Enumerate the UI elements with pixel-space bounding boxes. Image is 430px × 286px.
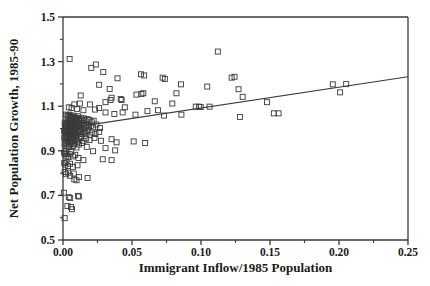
data-point-marker <box>330 82 335 87</box>
data-point-marker <box>109 158 114 163</box>
data-point-marker <box>103 146 108 151</box>
y-tick-label: 0.9 <box>41 145 56 157</box>
data-point-marker <box>114 140 119 145</box>
x-tick-label: 0.15 <box>260 246 280 258</box>
data-point-marker <box>152 99 157 104</box>
data-point-marker <box>107 87 112 92</box>
data-point-marker <box>133 112 138 117</box>
scatter-plot-figure: 0.50.70.91.11.31.50.000.050.100.150.200.… <box>0 0 430 286</box>
data-point-marker <box>237 114 242 119</box>
data-point-marker <box>100 157 105 162</box>
data-point-marker <box>174 91 179 96</box>
data-point-marker <box>271 111 276 116</box>
data-point-marker <box>178 82 183 87</box>
data-point-marker <box>87 138 92 143</box>
data-point-marker <box>87 102 92 107</box>
data-point-marker <box>143 141 148 146</box>
data-point-marker <box>76 155 81 160</box>
data-point-marker <box>101 70 106 75</box>
data-point-marker <box>170 101 175 106</box>
data-point-marker <box>236 87 241 92</box>
data-point-marker <box>98 138 103 143</box>
data-point-marker <box>240 94 245 99</box>
x-tick-label: 0.00 <box>53 246 73 258</box>
data-point-marker <box>131 139 136 144</box>
x-tick-label: 0.05 <box>122 246 142 258</box>
y-tick-label: 0.7 <box>41 189 56 201</box>
data-point-marker <box>112 112 117 117</box>
data-point-marker <box>113 148 118 153</box>
x-axis-title: Immigrant Inflow/1985 Population <box>139 260 333 275</box>
y-tick-label: 0.5 <box>41 234 56 246</box>
data-point-marker <box>97 82 102 87</box>
data-point-marker <box>134 92 139 97</box>
data-point-marker <box>155 108 160 113</box>
data-point-marker <box>77 101 82 106</box>
x-tick-label: 0.25 <box>398 246 418 258</box>
data-point-marker <box>338 90 343 95</box>
data-point-marker <box>179 112 184 117</box>
scatter-series <box>61 49 348 221</box>
data-point-marker <box>81 158 86 163</box>
data-point-marker <box>81 108 86 113</box>
data-point-marker <box>122 105 127 110</box>
regression-line <box>63 77 408 129</box>
data-point-marker <box>264 100 269 105</box>
data-point-marker <box>120 110 125 115</box>
plot-canvas: 0.50.70.91.11.31.50.000.050.100.150.200.… <box>0 0 430 286</box>
data-point-marker <box>215 49 220 54</box>
data-point-marker <box>91 149 96 154</box>
y-tick-label: 1.1 <box>41 100 56 112</box>
y-tick-label: 1.3 <box>41 56 56 68</box>
data-point-marker <box>145 109 150 114</box>
y-axis-title: Net Population Growth, 1985-90 <box>6 39 21 219</box>
x-tick-label: 0.10 <box>191 246 211 258</box>
data-point-marker <box>67 56 72 61</box>
data-point-marker <box>276 111 281 116</box>
data-point-marker <box>115 76 120 81</box>
y-tick-label: 1.5 <box>41 11 56 23</box>
data-point-marker <box>109 137 114 142</box>
data-point-marker <box>205 84 210 89</box>
data-point-marker <box>103 100 108 105</box>
data-point-marker <box>78 93 83 98</box>
x-tick-label: 0.20 <box>329 246 349 258</box>
data-point-marker <box>61 190 66 195</box>
data-point-marker <box>85 176 90 181</box>
data-point-marker <box>103 110 108 115</box>
